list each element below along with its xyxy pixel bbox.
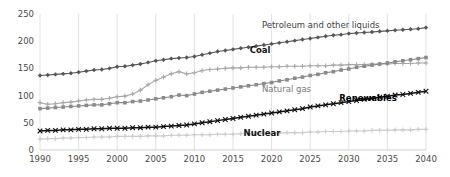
- data-point-marker: [401, 59, 405, 63]
- data-point-marker: [292, 64, 297, 69]
- data-point-marker: [424, 25, 428, 29]
- data-point-marker: [308, 74, 312, 78]
- data-point-marker: [285, 130, 290, 135]
- data-point-marker: [300, 37, 304, 41]
- x-axis-tick-label: 2025: [299, 155, 321, 164]
- data-point-marker: [92, 68, 96, 72]
- plot-area: [40, 14, 426, 150]
- gridlines: [40, 14, 426, 150]
- data-point-marker: [370, 30, 374, 34]
- data-point-marker: [238, 131, 243, 136]
- data-point-marker: [308, 36, 312, 40]
- y-axis-tick-label: 250: [18, 10, 34, 19]
- data-point-marker: [292, 130, 297, 135]
- data-point-marker: [362, 64, 366, 68]
- data-point-marker: [278, 79, 282, 83]
- data-point-marker: [408, 27, 412, 31]
- x-axis-labels: 1990199520002005201020152020202520302035…: [0, 155, 450, 171]
- line-chart: 050100150200250 199019952000200520102015…: [0, 0, 450, 177]
- data-point-marker: [293, 38, 297, 42]
- data-point-marker: [216, 88, 220, 92]
- data-point-marker: [108, 102, 112, 106]
- data-point-marker: [69, 71, 73, 75]
- data-point-marker: [38, 100, 43, 105]
- x-axis-tick-label: 2030: [338, 155, 360, 164]
- data-point-marker: [130, 63, 134, 67]
- data-point-marker: [115, 65, 119, 69]
- data-point-marker: [300, 130, 305, 135]
- data-point-marker: [231, 132, 236, 137]
- data-point-marker: [285, 40, 289, 44]
- data-point-marker: [293, 76, 297, 80]
- data-point-marker: [38, 73, 42, 77]
- data-point-marker: [69, 136, 74, 141]
- x-axis-tick-label: 2010: [184, 155, 206, 164]
- data-point-marker: [285, 64, 290, 69]
- data-point-marker: [401, 128, 406, 133]
- data-point-marker: [115, 101, 119, 105]
- data-point-marker: [92, 135, 97, 140]
- data-point-marker: [370, 128, 375, 133]
- data-point-marker: [269, 64, 274, 69]
- data-point-marker: [416, 57, 420, 61]
- data-point-marker: [301, 75, 305, 79]
- data-point-marker: [184, 133, 189, 138]
- data-point-marker: [138, 134, 143, 139]
- y-axis-tick-label: 50: [23, 119, 34, 128]
- data-point-marker: [131, 100, 135, 104]
- data-point-marker: [324, 71, 328, 75]
- data-point-marker: [177, 133, 182, 138]
- data-point-marker: [200, 53, 204, 57]
- data-point-marker: [123, 94, 128, 99]
- data-point-marker: [76, 99, 81, 104]
- data-point-marker: [169, 95, 173, 99]
- data-point-marker: [76, 70, 80, 74]
- data-point-marker: [215, 67, 220, 72]
- data-point-marker: [100, 67, 104, 71]
- data-point-marker: [416, 127, 421, 132]
- x-axis-tick-label: 2015: [222, 155, 244, 164]
- data-point-marker: [416, 26, 420, 30]
- data-point-marker: [254, 65, 259, 70]
- data-point-marker: [107, 96, 112, 101]
- data-point-marker: [185, 94, 189, 98]
- data-point-marker: [61, 136, 66, 141]
- data-point-marker: [223, 66, 228, 71]
- data-point-marker: [69, 105, 73, 109]
- x-axis-tick-label: 2020: [261, 155, 283, 164]
- data-point-marker: [76, 135, 81, 140]
- data-point-marker: [123, 64, 127, 68]
- data-point-marker: [339, 129, 344, 134]
- data-point-marker: [45, 102, 50, 107]
- data-point-marker: [215, 132, 220, 137]
- data-point-marker: [169, 72, 174, 77]
- data-point-marker: [277, 64, 282, 69]
- data-point-marker: [84, 135, 89, 140]
- data-point-marker: [184, 72, 189, 77]
- data-point-marker: [154, 59, 158, 63]
- data-point-marker: [123, 101, 127, 105]
- data-point-marker: [424, 127, 429, 132]
- data-point-marker: [154, 134, 159, 139]
- series-label-nuclear: Nuclear: [244, 129, 281, 138]
- data-point-marker: [300, 64, 305, 69]
- data-point-marker: [200, 91, 204, 95]
- data-point-marker: [161, 75, 166, 80]
- data-point-marker: [354, 31, 358, 35]
- data-point-marker: [308, 63, 313, 68]
- data-point-marker: [316, 35, 320, 39]
- data-point-marker: [339, 68, 343, 72]
- data-point-marker: [401, 28, 405, 32]
- data-point-marker: [154, 78, 159, 83]
- data-point-marker: [347, 67, 351, 71]
- data-point-marker: [316, 130, 321, 135]
- data-point-marker: [331, 63, 336, 68]
- data-point-marker: [130, 134, 135, 139]
- data-point-marker: [247, 84, 251, 88]
- data-point-marker: [339, 63, 344, 68]
- y-axis-tick-label: 100: [18, 92, 34, 101]
- data-point-marker: [161, 134, 166, 139]
- data-point-marker: [331, 129, 336, 134]
- data-point-marker: [54, 106, 58, 110]
- data-point-marker: [354, 129, 359, 134]
